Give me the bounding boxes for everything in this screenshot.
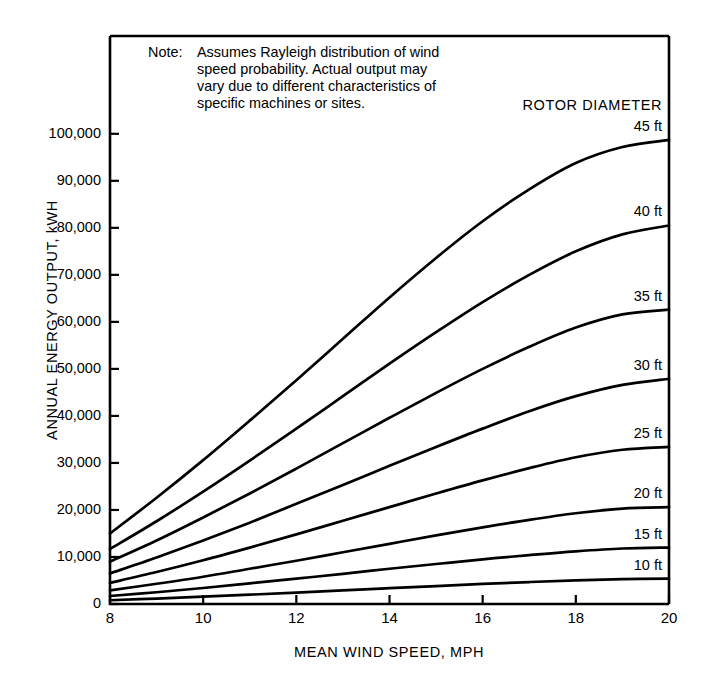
- note-line-1: Assumes Rayleigh distribution of wind: [197, 44, 439, 60]
- y-axis-title: ANNUAL ENERGY OUTPUT, kWH: [44, 200, 60, 440]
- y-tick-label: 30,000: [57, 454, 101, 470]
- wind-turbine-output-figure: Note: Assumes Rayleigh distribution of w…: [0, 0, 712, 681]
- x-tick-label: 14: [381, 609, 398, 626]
- y-tick-label: 10,000: [57, 548, 101, 564]
- x-tick-label: 20: [661, 609, 678, 626]
- x-tick-label: 10: [195, 609, 212, 626]
- series-label: 45 ft: [634, 118, 662, 134]
- y-tick-label: 80,000: [57, 219, 101, 235]
- series-curve: [110, 225, 669, 549]
- curve-group: [110, 140, 669, 600]
- legend-title: ROTOR DIAMETER: [523, 97, 662, 113]
- series-label: 40 ft: [634, 203, 662, 219]
- y-tick-label: 100,000: [49, 125, 101, 141]
- x-tick-label: 18: [567, 609, 584, 626]
- series-label: 35 ft: [634, 288, 662, 304]
- annual-energy-output-chart: Note: Assumes Rayleigh distribution of w…: [0, 0, 712, 681]
- series-label: 30 ft: [634, 357, 662, 373]
- y-tick-label: 90,000: [57, 172, 101, 188]
- note-label: Note:: [148, 44, 182, 60]
- y-tick-label: 20,000: [57, 501, 101, 517]
- y-tick-label: 70,000: [57, 266, 101, 282]
- y-tick-label: 0: [93, 595, 101, 611]
- series-label: 10 ft: [634, 557, 662, 573]
- y-tick-label: 50,000: [57, 360, 101, 376]
- x-tick-label: 12: [288, 609, 305, 626]
- y-tick-label: 60,000: [57, 313, 101, 329]
- note-line-3: vary due to different characteristics of: [197, 78, 437, 94]
- y-tick-label: 40,000: [57, 407, 101, 423]
- series-label: 25 ft: [634, 425, 662, 441]
- x-tick-label: 8: [106, 609, 114, 626]
- note-line-2: speed probability. Actual output may: [197, 61, 428, 77]
- series-label: 15 ft: [634, 526, 662, 542]
- axis-frame: [110, 36, 669, 604]
- series-label: 20 ft: [634, 485, 662, 501]
- note-block: Note: Assumes Rayleigh distribution of w…: [148, 44, 439, 111]
- series-curve: [110, 140, 669, 534]
- x-axis-ticks: 8101214161820: [106, 595, 678, 626]
- series-label-group: 45 ft40 ft35 ft30 ft25 ft20 ft15 ft10 ft: [634, 118, 662, 573]
- series-curve: [110, 310, 669, 562]
- x-axis-title: MEAN WIND SPEED, MPH: [294, 644, 484, 660]
- note-line-4: specific machines or sites.: [197, 95, 365, 111]
- x-tick-label: 16: [474, 609, 491, 626]
- series-curve: [110, 507, 669, 590]
